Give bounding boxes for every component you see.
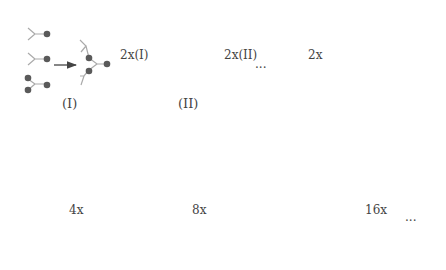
gray-node — [86, 68, 93, 75]
step-label-II: (II) — [178, 97, 198, 110]
arrow-label-2x-II: 2x(II) — [224, 49, 257, 61]
building-block-y-monomer-2 — [28, 53, 46, 65]
gray-node — [25, 75, 32, 82]
gray-node — [44, 82, 51, 89]
gray-node — [86, 55, 93, 62]
step-label-I: (I) — [62, 97, 77, 110]
arrow-label-2x-I: 2x(I) — [120, 49, 149, 61]
arrow-label-8x: 8x — [192, 204, 206, 216]
arrow-label-2x: 2x — [308, 49, 322, 61]
gray-node — [104, 61, 111, 68]
dendrimer-growth-diagram — [0, 0, 446, 270]
ellipsis-top: ... — [255, 58, 266, 70]
gray-node — [44, 31, 51, 38]
building-block-y-monomer-1 — [28, 28, 46, 40]
gray-node — [25, 87, 32, 94]
ellipsis-bottom: ... — [405, 211, 416, 223]
gray-node — [44, 56, 51, 63]
arrow-label-16x: 16x — [365, 204, 387, 216]
generation-1-product — [80, 40, 107, 85]
arrow-label-4x: 4x — [69, 204, 83, 216]
